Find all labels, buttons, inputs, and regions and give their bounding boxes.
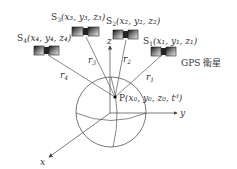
receiver-point [113,95,116,98]
satellite-s3-label: S3(x₃, y₃, z₃) [51,12,106,23]
x-axis-label: x [40,157,45,167]
range-lines [48,37,163,97]
x-axis [49,113,110,157]
satellite-s4 [34,46,59,55]
satellite-s2 [113,30,138,39]
range-r4: r4 [60,70,68,81]
z-axis-label: z [106,36,112,46]
gps-satellite-caption: GPS 衛星 [181,57,221,68]
range-r3: r3 [88,55,96,66]
gps-diagram: z y x r1 r2 r3 r4 P(x₀, y₀, z₀, tᵈ) S3(x… [0,0,237,169]
satellite-s1-label: S1(x₁, y₁, z₁) [143,36,198,47]
y-axis-label: y [179,108,186,118]
satellite-s3 [72,27,99,36]
receiver-label: P(x₀, y₀, z₀, tᵈ) [119,93,183,103]
satellite-s1 [151,47,176,56]
satellite-s2-label: S2(x₂, y₂, z₂) [106,16,161,27]
satellite-s4-label: S4(x₄, y₄, z₄) [17,33,72,44]
earth-sphere [76,77,146,147]
range-r2: r2 [123,54,131,65]
range-r1: r1 [146,72,154,83]
